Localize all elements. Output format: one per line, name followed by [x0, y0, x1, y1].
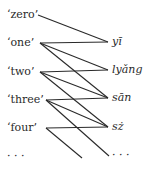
left-label-three: ‘three’ [7, 94, 44, 106]
edge-one-yi [40, 42, 108, 43]
right-label-lyang: lyǎng [112, 64, 142, 76]
right-label-si: sż [112, 121, 123, 133]
left-label-two: ‘two’ [7, 66, 34, 78]
left-label-ellipsis: · · · [7, 151, 24, 163]
edge-one-lyang [40, 43, 108, 70]
edge-zero-yi [38, 15, 108, 42]
edge-four-si [46, 127, 108, 128]
right-label-san: sān [112, 92, 131, 104]
edge-four-etc [46, 128, 82, 158]
left-label-four: ‘four’ [7, 122, 37, 134]
edge-two-san [40, 72, 108, 98]
edge-three-san [46, 98, 108, 100]
right-label-yi: yī [112, 36, 122, 48]
left-label-one: ‘one’ [7, 37, 34, 49]
edge-three-si [46, 100, 108, 127]
right-label-ellipsis: · · · [112, 150, 129, 162]
mapping-lines [0, 0, 151, 170]
left-label-zero: ‘zero’ [7, 9, 38, 21]
